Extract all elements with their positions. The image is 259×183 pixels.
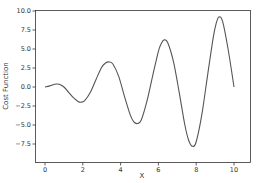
x-tick-label: 2 [81, 166, 85, 174]
y-tick-label: 0.0 [21, 83, 31, 91]
cost-function-curve [45, 17, 234, 147]
y-tick-label: 10.0 [17, 7, 31, 15]
y-tick-label: −5.0 [15, 121, 31, 129]
x-tick-label: 10 [230, 166, 238, 174]
x-tick-label: 8 [194, 166, 198, 174]
line-chart: 0246810 10.07.55.02.50.0−2.5−5.0−7.5 X C… [0, 0, 259, 183]
x-axis-label: X [140, 172, 145, 180]
y-axis-ticks: 10.07.55.02.50.0−2.5−5.0−7.5 [15, 7, 35, 148]
y-tick-label: −7.5 [15, 140, 31, 148]
axes-frame [36, 11, 251, 163]
y-tick-label: 5.0 [21, 45, 31, 53]
y-tick-label: −2.5 [15, 102, 31, 110]
x-tick-label: 0 [43, 166, 47, 174]
y-tick-label: 2.5 [21, 64, 31, 72]
x-tick-label: 6 [156, 166, 160, 174]
y-axis-label: Cost Function [2, 62, 10, 110]
x-tick-label: 4 [119, 166, 123, 174]
y-tick-label: 7.5 [21, 26, 31, 34]
cost-function-line [45, 17, 234, 147]
